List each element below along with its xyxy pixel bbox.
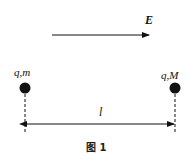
diagram-svg: E q,m q,M l 图 1: [0, 0, 194, 164]
left-charge-dot: [20, 83, 31, 94]
field-label: E: [144, 13, 153, 27]
right-charge-dot: [170, 83, 181, 94]
distance-label: l: [99, 105, 103, 119]
left-charge-label: q,m: [14, 66, 30, 78]
figure: E q,m q,M l 图 1: [0, 0, 194, 164]
right-charge-label: q,M: [161, 69, 179, 81]
figure-caption: 图 1: [86, 142, 106, 153]
